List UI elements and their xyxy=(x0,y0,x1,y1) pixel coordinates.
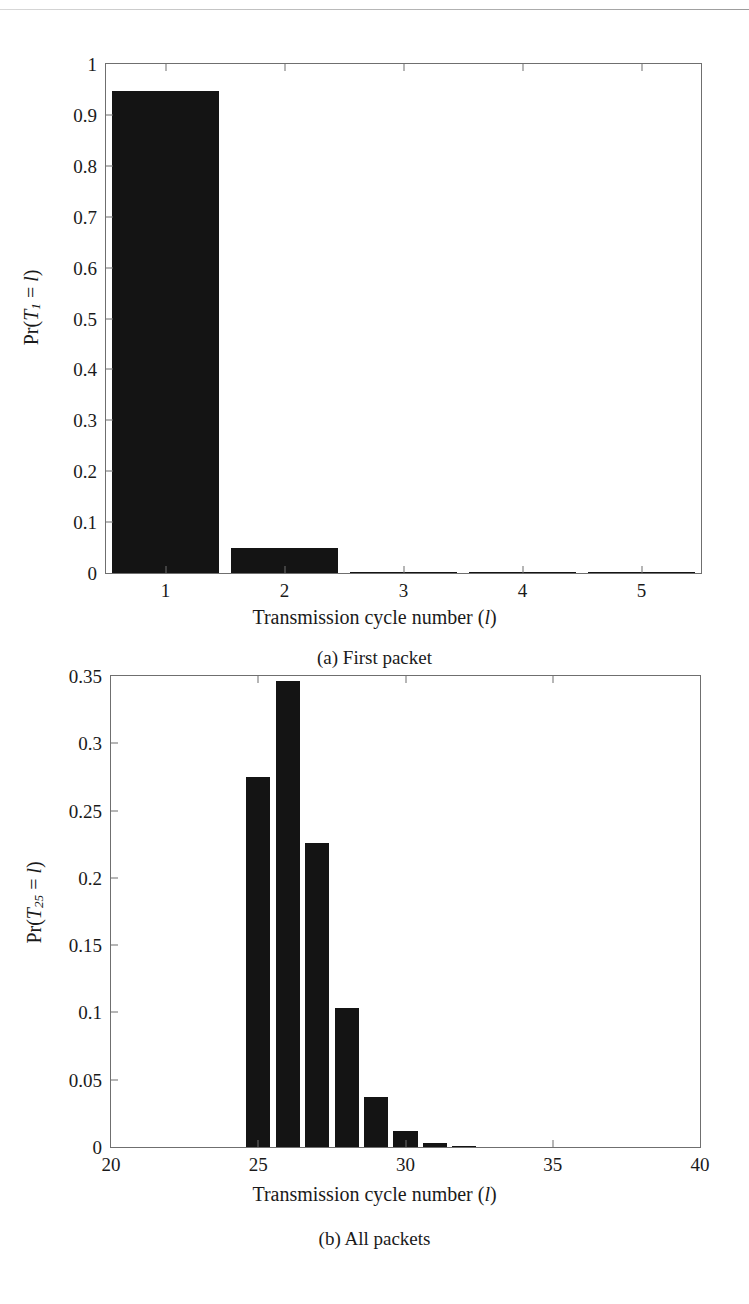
y-tick-mark xyxy=(106,114,113,115)
bar xyxy=(305,843,329,1147)
bar xyxy=(452,1146,476,1147)
x-tick-label: 35 xyxy=(543,1147,562,1174)
bar-series-b xyxy=(111,676,700,1147)
y-tick-mark xyxy=(111,945,118,946)
y-tick-mark xyxy=(106,471,113,472)
y-axis-label-b-text: Pr(T25 = l) xyxy=(23,861,45,943)
y-tick-label: 0.15 xyxy=(69,936,111,955)
y-tick-mark xyxy=(106,522,113,523)
x-tick-mark-top xyxy=(552,676,553,683)
y-tick-label: 0 xyxy=(88,564,107,583)
y-tick-label: 1 xyxy=(88,55,107,74)
x-tick-label: 30 xyxy=(396,1147,415,1174)
y-tick-mark xyxy=(111,743,118,744)
x-tick-label: 25 xyxy=(249,1147,268,1174)
header-rule xyxy=(0,9,749,10)
bar xyxy=(364,1097,388,1147)
x-tick-label: 3 xyxy=(399,573,409,600)
y-tick-label: 0.35 xyxy=(69,667,111,686)
y-tick-label: 0.8 xyxy=(73,156,106,175)
y-tick-mark xyxy=(106,216,113,217)
bar xyxy=(276,681,300,1147)
y-tick-label: 0.1 xyxy=(78,1003,111,1022)
y-tick-label: 0.2 xyxy=(73,462,106,481)
figure-first-packet: 00.10.20.30.40.50.60.70.80.91 12345 Pr(T… xyxy=(0,30,749,640)
x-tick-label: 5 xyxy=(637,573,647,600)
x-tick-mark-top xyxy=(258,676,259,683)
y-tick-mark xyxy=(106,369,113,370)
y-tick-label: 0.4 xyxy=(73,360,106,379)
x-tick-label: 4 xyxy=(518,573,528,600)
y-tick-mark xyxy=(111,877,118,878)
x-tick-mark xyxy=(284,566,285,573)
x-tick-label: 2 xyxy=(280,573,290,600)
y-tick-label: 0.7 xyxy=(73,207,106,226)
x-tick-label: 40 xyxy=(691,1147,710,1174)
x-tick-mark-top xyxy=(641,64,642,71)
plot-area-b: 00.050.10.150.20.250.30.35 2025303540 xyxy=(110,675,701,1148)
y-tick-mark xyxy=(106,318,113,319)
x-tick-mark xyxy=(258,1140,259,1147)
x-axis-label-a: Transmission cycle number (l) xyxy=(0,606,749,629)
y-tick-label: 0.3 xyxy=(73,411,106,430)
y-axis-label-b: Pr(T25 = l) xyxy=(23,827,48,977)
x-tick-mark xyxy=(405,1140,406,1147)
x-tick-mark xyxy=(403,566,404,573)
y-tick-mark xyxy=(111,1079,118,1080)
x-tick-mark xyxy=(552,1140,553,1147)
bar-series-a xyxy=(106,64,701,573)
x-tick-mark-top xyxy=(522,64,523,71)
figure-caption-b: (b) All packets xyxy=(0,1228,749,1250)
y-tick-label: 0.1 xyxy=(73,513,106,532)
y-tick-label: 0.9 xyxy=(73,105,106,124)
y-tick-label: 0.25 xyxy=(69,801,111,820)
y-tick-label: 0.5 xyxy=(73,309,106,328)
x-tick-label: 1 xyxy=(161,573,171,600)
bar xyxy=(246,777,270,1147)
bar xyxy=(335,1008,359,1147)
y-tick-label: 0.3 xyxy=(78,734,111,753)
bar xyxy=(423,1143,447,1147)
y-tick-mark xyxy=(106,420,113,421)
running-header xyxy=(330,0,740,7)
x-tick-mark xyxy=(522,566,523,573)
plot-area-a: 00.10.20.30.40.50.60.70.80.91 12345 xyxy=(105,63,702,574)
y-axis-label-a-text: Pr(T1 = l) xyxy=(20,270,42,346)
y-axis-label-a: Pr(T1 = l) xyxy=(20,237,45,377)
y-tick-label: 0.05 xyxy=(69,1070,111,1089)
scanned-page: 00.10.20.30.40.50.60.70.80.91 12345 Pr(T… xyxy=(0,0,749,1304)
y-tick-mark xyxy=(106,165,113,166)
bar xyxy=(112,91,219,573)
y-tick-mark xyxy=(106,267,113,268)
y-tick-label: 0.2 xyxy=(78,868,111,887)
x-tick-mark xyxy=(165,566,166,573)
y-tick-mark xyxy=(111,1012,118,1013)
figure-all-packets: 00.050.10.150.20.250.30.35 2025303540 Pr… xyxy=(0,650,749,1280)
x-tick-mark xyxy=(641,566,642,573)
y-tick-label: 0.6 xyxy=(73,258,106,277)
x-tick-mark-top xyxy=(405,676,406,683)
x-tick-label: 20 xyxy=(102,1147,121,1174)
x-tick-mark-top xyxy=(403,64,404,71)
x-axis-label-b: Transmission cycle number (l) xyxy=(0,1183,749,1206)
x-tick-mark-top xyxy=(284,64,285,71)
y-tick-mark xyxy=(111,810,118,811)
x-tick-mark-top xyxy=(165,64,166,71)
